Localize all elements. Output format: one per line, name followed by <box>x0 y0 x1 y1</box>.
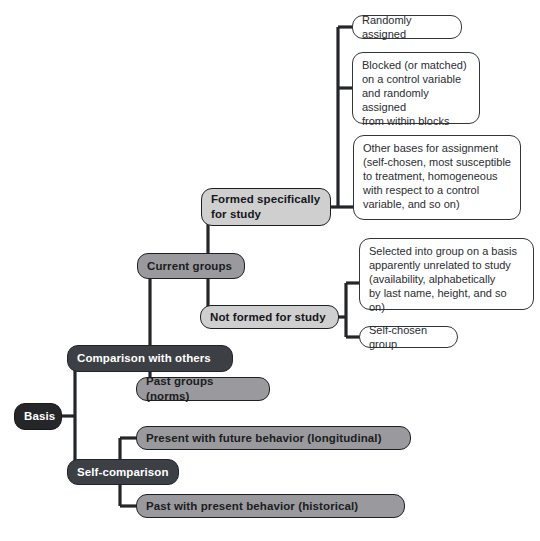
node-other-bases-for-assignment[interactable]: Other bases for assignment (self-chosen,… <box>353 135 521 220</box>
node-selected-into-group[interactable]: Selected into group on a basis apparentl… <box>359 238 534 310</box>
node-formed-specifically-for-study[interactable]: Formed specifically for study <box>201 188 331 226</box>
node-blocked-or-matched[interactable]: Blocked (or matched) on a control variab… <box>352 52 480 124</box>
node-self-comparison-label: Self-comparison <box>77 465 169 480</box>
node-self-chosen-group-label: Self-chosen group <box>369 323 448 351</box>
node-current-groups-label: Current groups <box>147 259 235 274</box>
node-past-with-present-behavior[interactable]: Past with present behavior (historical) <box>136 494 405 518</box>
tree-diagram: Basis Comparison with others Self-compar… <box>0 0 540 541</box>
node-randomly-assigned-label: Randomly assigned <box>362 13 452 41</box>
node-other-bases-for-assignment-label: Other bases for assignment (self-chosen,… <box>363 141 511 211</box>
node-not-formed-for-study-label: Not formed for study <box>210 310 329 325</box>
node-past-groups-norms[interactable]: Past groups (norms) <box>136 377 270 401</box>
node-comparison-with-others-label: Comparison with others <box>77 351 223 366</box>
node-self-comparison[interactable]: Self-comparison <box>67 459 179 485</box>
node-randomly-assigned[interactable]: Randomly assigned <box>352 15 462 39</box>
node-blocked-or-matched-label: Blocked (or matched) on a control variab… <box>362 58 470 128</box>
node-not-formed-for-study[interactable]: Not formed for study <box>200 305 339 329</box>
node-current-groups[interactable]: Current groups <box>137 253 245 279</box>
node-present-with-future-behavior-label: Present with future behavior (longitudin… <box>146 431 401 446</box>
node-selected-into-group-label: Selected into group on a basis apparentl… <box>369 244 524 314</box>
node-basis[interactable]: Basis <box>14 403 62 430</box>
node-present-with-future-behavior[interactable]: Present with future behavior (longitudin… <box>136 426 411 450</box>
node-basis-label: Basis <box>24 409 52 424</box>
node-formed-specifically-for-study-label: Formed specifically for study <box>211 192 321 221</box>
node-comparison-with-others[interactable]: Comparison with others <box>67 345 233 372</box>
node-self-chosen-group[interactable]: Self-chosen group <box>359 326 458 348</box>
node-past-groups-norms-label: Past groups (norms) <box>146 374 260 403</box>
node-past-with-present-behavior-label: Past with present behavior (historical) <box>146 499 395 514</box>
